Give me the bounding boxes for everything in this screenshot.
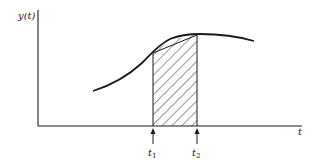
plot-canvas bbox=[0, 0, 316, 168]
t2-label: t2 bbox=[192, 148, 201, 160]
t1-label: t1 bbox=[148, 148, 157, 160]
t1-arrow bbox=[151, 128, 156, 144]
y-axis-label: y(t) bbox=[18, 11, 35, 21]
x-axis-label: t bbox=[298, 127, 302, 137]
t2-arrow bbox=[195, 128, 200, 144]
